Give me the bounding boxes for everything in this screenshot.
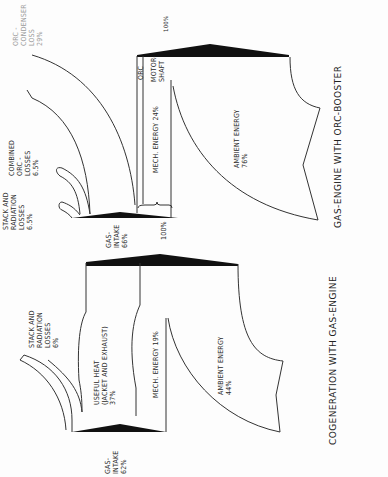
top-orc-label: ORC (137, 66, 145, 80)
top-orc-condenser-loss-label: ORC - CONDENSER LOSS 29% (12, 4, 44, 46)
top-diagram-title: GAS-ENGINE WITH ORC-BOOSTER (333, 66, 343, 228)
top-100-percent-label: 100% (160, 221, 168, 240)
top-100-percent-upper-label: 100% (162, 16, 170, 32)
top-intake-wedge (72, 212, 178, 218)
top-combined-orc-losses-label: COMBINED ORC - LOSSES 6.5% (8, 140, 40, 176)
top-mech-energy-label: MECH. ENERGY 24% (152, 106, 160, 173)
sankey-figure: ORC - CONDENSER LOSS 29% COMBINED ORC - … (0, 0, 388, 477)
bottom-useful-heat-label: USEFUL HEAT (JACKET AND EXHAUST) 37% (93, 326, 117, 405)
top-gas-intake-label: GAS- INTAKE 66% (105, 225, 129, 248)
bottom-100-wedge (86, 254, 238, 266)
bottom-mech-energy-label: MECH. ENERGY 19% (152, 331, 160, 398)
bottom-diagram-title: COGENERATION WITH GAS-ENGINE (328, 276, 338, 445)
top-diagram (27, 44, 320, 220)
bottom-gas-intake-label: GAS- INTAKE 62% (104, 451, 128, 474)
bottom-intake-wedge (72, 424, 166, 432)
bottom-ambient-energy-label: AMBIENT ENERGY 44% (217, 336, 233, 395)
bottom-stack-losses-label: STACK AND RADIATION LOSSES 6% (28, 310, 60, 348)
top-ambient-energy-label: AMBIENT ENERGY 76% (233, 109, 249, 168)
top-motor-shaft-label: MOTOR- SHAFT (150, 55, 166, 82)
top-stack-losses-label: STACK AND RADIATION LOSSES 6.5% (2, 192, 34, 230)
